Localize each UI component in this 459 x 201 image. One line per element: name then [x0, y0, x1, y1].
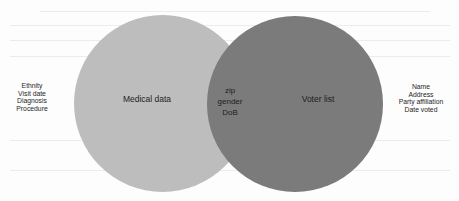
bleed-through-line — [40, 11, 430, 12]
venn-diagram: Medical data Voter list zip gender DoB E… — [0, 0, 459, 201]
voter-attribute: Name — [399, 83, 443, 91]
medical-attribute: Diagnosis — [16, 97, 47, 105]
medical-data-label: Medical data — [123, 94, 171, 104]
bleed-through-line — [10, 170, 450, 171]
intersection-attribute: gender — [218, 96, 243, 107]
bleed-through-line — [10, 40, 450, 41]
medical-attribute: Procedure — [16, 105, 47, 113]
voter-list-attributes: Name Address Party affiliation Date vote… — [399, 83, 443, 113]
voter-list-label: Voter list — [302, 94, 335, 104]
medical-attribute: Ethnity — [16, 82, 47, 90]
intersection-attribute: zip — [218, 85, 243, 96]
intersection-attributes: zip gender DoB — [218, 85, 243, 118]
voter-attribute: Party affiliation — [399, 98, 443, 106]
bleed-through-line — [10, 25, 450, 26]
medical-attribute: Visit date — [16, 90, 47, 98]
medical-data-attributes: Ethnity Visit date Diagnosis Procedure — [16, 82, 47, 112]
intersection-attribute: DoB — [218, 107, 243, 118]
voter-attribute: Date voted — [399, 106, 443, 114]
voter-attribute: Address — [399, 91, 443, 99]
